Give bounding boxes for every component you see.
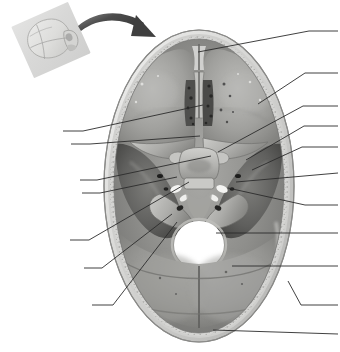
cranial-base-photograph — [100, 26, 298, 344]
anatomy-figure — [0, 0, 340, 352]
